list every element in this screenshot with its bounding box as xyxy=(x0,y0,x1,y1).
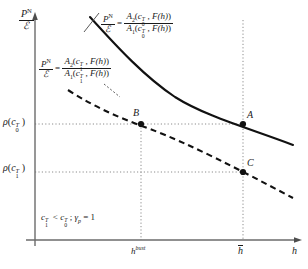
hbust-sup: bust xyxy=(136,245,146,251)
eq-mid-lhs-num-sup: N xyxy=(47,58,51,64)
equation-top: PN ℰ = A2(c0T, F(h)) A1(c0T, F(h)) xyxy=(101,12,173,35)
eq-top-den-arg2: F(h) xyxy=(152,23,168,33)
y-axis-denominator: ℰ xyxy=(19,21,34,32)
equation-middle: PN ℰ = A2(c1T, F(h)) A1(c1T, F(h)) xyxy=(39,57,111,80)
leader-top-equation xyxy=(84,13,99,32)
x-tick-label-hbar: h xyxy=(238,245,243,257)
cond-relation: < xyxy=(53,212,58,222)
point-c-label: C xyxy=(247,158,254,169)
eq-top-equals: = xyxy=(117,18,122,28)
y-tick-label-rho-c0T: ρ(c0T) xyxy=(3,117,25,128)
economics-figure: PN ℰ PN ℰ = A2(c0T, F(h)) A1(c0T, F(h)) … xyxy=(0,0,308,269)
eq-mid-den-arg2: F(h) xyxy=(90,68,106,78)
point-a-marker xyxy=(240,121,246,127)
eq-mid-den-arg-sup: T xyxy=(80,73,83,79)
leader-mid-equation xyxy=(104,84,120,97)
eq-mid-equals: = xyxy=(55,63,60,73)
point-b-label: B xyxy=(133,108,139,119)
point-c-marker xyxy=(240,169,246,175)
eq-top-lhs-den: ℰ xyxy=(101,25,115,34)
y-tick-label-rho-c1T: ρ(c1T) xyxy=(3,163,25,174)
cond-gamma-sub: p xyxy=(78,218,81,224)
hbar-base: h xyxy=(238,245,243,256)
point-b-marker xyxy=(138,121,144,127)
cond-sup-right: T xyxy=(64,217,67,223)
eq-top-num-sub: 2 xyxy=(132,17,135,23)
eq-mid-num-arg-sup: T xyxy=(80,61,83,67)
figure-canvas xyxy=(0,0,308,269)
eq-top-num-arg2: F(h) xyxy=(152,11,168,21)
y-axis-label: PN ℰ xyxy=(19,8,34,31)
curve-c1T-dashed xyxy=(68,90,293,198)
point-a-label: A xyxy=(247,110,253,121)
condition-note: c1T < c0T; γp = 1 xyxy=(41,213,95,224)
eq-top-lhs-num-sup: N xyxy=(109,13,113,19)
c-sup-top: T xyxy=(16,122,20,129)
eq-mid-den-sub: 1 xyxy=(70,74,73,80)
curve-c0T-solid xyxy=(90,17,293,145)
x-tick-label-hbust: hbust xyxy=(131,245,145,256)
cond-equals: = xyxy=(83,212,88,222)
eq-top-den-arg-sup: T xyxy=(142,28,145,34)
eq-mid-num-arg2: F(h) xyxy=(90,56,106,66)
c-sup-bot: T xyxy=(16,168,20,175)
paren-close-top: ) xyxy=(22,116,25,127)
eq-top-num-arg-sup: T xyxy=(142,16,145,22)
cond-separator: ; xyxy=(70,212,73,222)
x-axis-label: h xyxy=(292,246,297,257)
cond-sup-left: T xyxy=(45,217,48,223)
eq-mid-num-sub: 2 xyxy=(70,62,73,68)
cond-value: 1 xyxy=(91,212,96,222)
x-axis-arrow xyxy=(294,237,302,243)
eq-top-den-sub: 1 xyxy=(132,29,135,35)
y-axis-numerator-sup: N xyxy=(27,7,32,14)
eq-mid-lhs-den: ℰ xyxy=(39,70,53,79)
paren-close-bot: ) xyxy=(22,162,25,173)
